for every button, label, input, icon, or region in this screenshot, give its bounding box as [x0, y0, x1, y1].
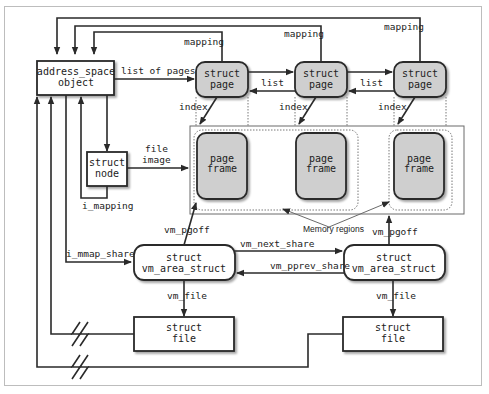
address-space-node[interactable]: address_space object	[37, 61, 115, 95]
mapping-edges	[57, 18, 420, 62]
svg-text:struct: struct	[89, 157, 125, 168]
mapping-label-2: mapping	[284, 28, 324, 39]
file-image-label-2: image	[142, 154, 171, 165]
mapping-label-1: mapping	[184, 36, 224, 47]
i-mmap-shared-label: i_mmap_shared	[66, 248, 140, 259]
svg-text:struct: struct	[375, 322, 411, 333]
svg-text:struct: struct	[303, 68, 339, 79]
vm-area-struct-node-2[interactable]: struct vm_area_struct	[344, 245, 445, 280]
svg-text:node: node	[95, 168, 119, 179]
svg-text:struct: struct	[204, 68, 240, 79]
break-marks	[72, 322, 88, 379]
svg-text:page: page	[309, 79, 333, 90]
list-label-2: list	[360, 77, 383, 88]
struct-page-node-3[interactable]: struct page	[394, 62, 446, 97]
index-label-3: index	[378, 101, 407, 112]
svg-text:vm_area_struct: vm_area_struct	[352, 263, 436, 275]
vm-file-label-2: vm_file	[376, 290, 416, 301]
svg-text:file: file	[172, 333, 196, 344]
vm-pprev-share-label: vm_pprev_share	[270, 260, 350, 271]
struct-file-node-1[interactable]: struct file	[134, 317, 234, 351]
page-cache-diagram: mapping mapping mapping address_space ob…	[0, 0, 489, 394]
vm-pgoff-label-1: vm_pgoff	[164, 224, 210, 235]
index-label-1: index	[179, 101, 208, 112]
svg-text:page: page	[408, 79, 432, 90]
svg-text:file: file	[381, 333, 405, 344]
svg-text:frame: frame	[306, 163, 336, 174]
svg-text:struct: struct	[376, 252, 412, 263]
i-mapping-label: i_mapping	[82, 200, 133, 211]
svg-text:object: object	[58, 77, 94, 88]
svg-text:page: page	[210, 79, 234, 90]
memory-regions-label: Memory regions	[303, 224, 364, 234]
struct-page-node-2[interactable]: struct page	[295, 62, 347, 97]
file-image-label-1: file	[145, 143, 168, 154]
struct-node[interactable]: struct node	[87, 152, 127, 186]
page-frame-1[interactable]: page frame	[197, 133, 247, 199]
svg-text:frame: frame	[404, 163, 434, 174]
vm-area-struct-node-1[interactable]: struct vm_area_struct	[134, 245, 235, 280]
vm-file-label-1: vm_file	[167, 290, 207, 301]
page-frame-2[interactable]: page frame	[296, 133, 346, 199]
page-guides	[196, 97, 446, 126]
index-label-2: index	[279, 101, 308, 112]
vm-next-share-label: vm_next_share	[240, 238, 315, 249]
page-frame-3[interactable]: page frame	[394, 133, 444, 199]
svg-text:struct: struct	[166, 252, 202, 263]
list-label-1: list	[261, 77, 284, 88]
mapping-label-3: mapping	[384, 21, 424, 32]
svg-text:vm_area_struct: vm_area_struct	[142, 263, 226, 275]
list-of-pages-label: list of pages	[121, 65, 195, 76]
svg-text:struct: struct	[402, 68, 438, 79]
struct-page-node-1[interactable]: struct page	[196, 62, 248, 97]
svg-text:struct: struct	[166, 322, 202, 333]
vm-pgoff-label-2: vm_pgoff	[372, 226, 418, 237]
struct-file-node-2[interactable]: struct file	[343, 317, 443, 351]
svg-text:frame: frame	[207, 163, 237, 174]
